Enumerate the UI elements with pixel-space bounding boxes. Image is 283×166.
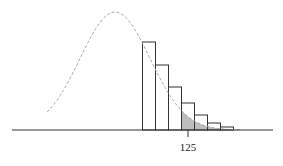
bar-123 — [156, 65, 169, 130]
normal-curve — [47, 12, 240, 130]
bar-122 — [143, 42, 156, 130]
x-axis-tick-label: 125 — [180, 141, 197, 153]
histogram-chart: 125 — [0, 0, 283, 166]
